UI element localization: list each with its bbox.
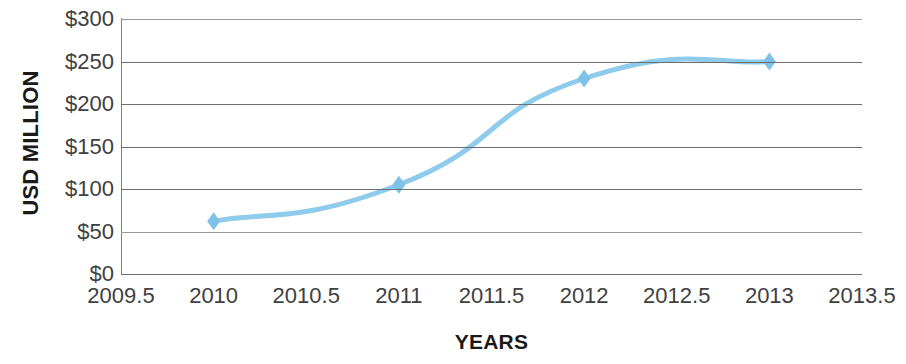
- x-axis-tick-label: 2010: [189, 283, 238, 309]
- gridline: [121, 189, 862, 190]
- x-axis-tick-label: 2012.5: [643, 283, 710, 309]
- x-axis-tick-label: 2013: [745, 283, 794, 309]
- y-axis-tick-label: $50: [24, 219, 114, 245]
- y-axis-tick-label: $250: [24, 49, 114, 75]
- gridline: [121, 104, 862, 105]
- x-axis-tick-labels: 2009.520102010.520112011.520122012.52013…: [0, 283, 906, 315]
- x-axis-tick-label: 2011: [375, 283, 422, 309]
- data-point-marker: [207, 212, 220, 230]
- gridline: [121, 232, 862, 233]
- x-axis-title: YEARS: [121, 330, 862, 354]
- y-axis-tick-label: $100: [24, 176, 114, 202]
- gridline: [121, 147, 862, 148]
- x-axis-tick-label: 2009.5: [87, 283, 154, 309]
- y-axis-tick-label: $150: [24, 134, 114, 160]
- line-chart: USD MILLION $300$250$200$150$100$50$0 20…: [0, 0, 906, 364]
- x-axis-tick-label: 2013.5: [828, 283, 895, 309]
- gridline: [121, 274, 862, 275]
- series-line: [214, 59, 770, 222]
- gridline: [121, 62, 862, 63]
- data-point-marker: [578, 70, 591, 88]
- plot-area: [121, 19, 862, 274]
- x-axis-tick-label: 2012: [560, 283, 609, 309]
- data-point-marker: [392, 176, 405, 194]
- y-axis-tick-label: $300: [24, 6, 114, 32]
- x-axis-tick-label: 2010.5: [273, 283, 340, 309]
- y-axis-tick-label: $200: [24, 91, 114, 117]
- gridline: [121, 19, 862, 20]
- x-axis-tick-label: 2011.5: [459, 283, 525, 309]
